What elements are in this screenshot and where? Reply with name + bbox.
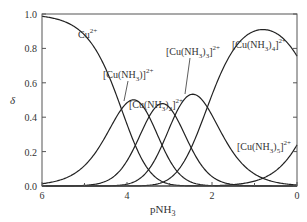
x-tick-label: 0 bbox=[295, 190, 300, 201]
x-axis-label: pNH3 bbox=[150, 203, 175, 218]
y-tick-label: 0.4 bbox=[25, 112, 38, 123]
series-label: [Cu(NH3)3]2+ bbox=[166, 44, 220, 60]
series-label: [Cu(NH3)4]2+ bbox=[232, 37, 286, 53]
chart-svg: 0.00.20.40.60.81.06420 Cu2+[Cu(NH3)]2+[C… bbox=[0, 0, 307, 222]
label-leader-line bbox=[124, 81, 128, 101]
series-label: Cu2+ bbox=[78, 27, 97, 40]
y-tick-label: 0.6 bbox=[25, 78, 38, 89]
y-tick-label: 0.0 bbox=[25, 181, 38, 192]
x-tick-label: 2 bbox=[210, 190, 215, 201]
y-tick-label: 1.0 bbox=[25, 9, 38, 20]
x-tick-label: 4 bbox=[125, 190, 130, 201]
x-tick-label: 6 bbox=[40, 190, 45, 201]
series-label: [Cu(NH3)2]2+ bbox=[129, 97, 183, 113]
label-leader-line bbox=[185, 58, 190, 94]
chart-annotations: Cu2+[Cu(NH3)]2+[Cu(NH3)2]2+[Cu(NH3)3]2+[… bbox=[78, 27, 291, 155]
series-label: [Cu(NH3)5]2+ bbox=[237, 139, 291, 155]
x-axis-label-text: pNH bbox=[150, 203, 171, 215]
y-tick-label: 0.8 bbox=[25, 43, 38, 54]
species-distribution-chart: 0.00.20.40.60.81.06420 Cu2+[Cu(NH3)]2+[C… bbox=[0, 0, 307, 222]
y-tick-label: 0.2 bbox=[25, 147, 38, 158]
x-axis-label-subscript: 3 bbox=[171, 209, 175, 218]
y-axis-label: δ bbox=[10, 94, 16, 106]
